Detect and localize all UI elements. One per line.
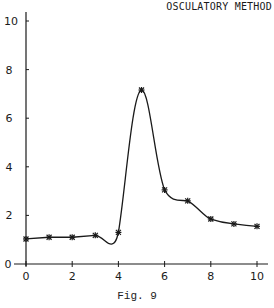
data-point-marker — [23, 236, 29, 242]
y-tick-label: 4 — [6, 161, 13, 174]
data-point-marker — [115, 229, 121, 235]
interpolated-curve — [26, 90, 257, 244]
data-point-marker — [254, 223, 260, 229]
data-point-marker — [46, 234, 52, 240]
data-point-marker — [139, 87, 145, 93]
y-tick-label: 6 — [6, 112, 13, 125]
chart-title: OSCULATORY METHOD — [166, 1, 272, 12]
y-tick-label: 2 — [6, 209, 13, 222]
x-tick-label: 0 — [23, 270, 30, 283]
data-point-marker — [185, 198, 191, 204]
figure-caption: Fig. 9 — [0, 290, 274, 302]
data-point-marker — [69, 234, 75, 240]
x-tick-label: 4 — [115, 270, 122, 283]
y-tick-label: 8 — [6, 64, 13, 77]
x-tick-label: 6 — [161, 270, 168, 283]
data-point-marker — [231, 221, 237, 227]
x-tick-label: 2 — [69, 270, 76, 283]
y-tick-label: 10 — [4, 15, 18, 28]
data-point-marker — [208, 216, 214, 222]
x-tick-label: 8 — [207, 270, 214, 283]
data-point-marker — [162, 187, 168, 193]
x-tick-label: 10 — [250, 270, 264, 283]
data-point-marker — [92, 232, 98, 238]
chart-plot: 02468100246810 — [0, 0, 274, 308]
y-tick-label: 0 — [5, 258, 12, 271]
